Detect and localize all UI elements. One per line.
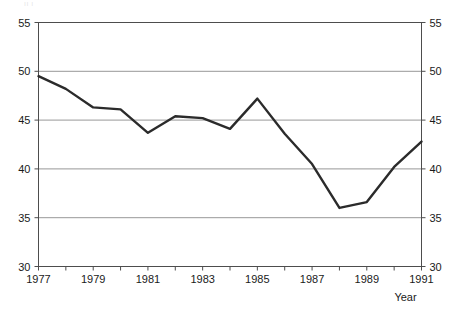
y-tick-label-left: 45 [18,114,30,126]
x-axis-tick-labels: 19771979198119831985198719891991 [26,273,433,285]
y-axis-tick-labels-right: 303540455055 [430,17,442,273]
chart-canvas: 303540455055 303540455055 19771979198119… [0,0,461,313]
y-tick-label-left: 50 [18,65,30,77]
y-tick-label-left: 30 [18,261,30,273]
y-tick-label-left: 55 [18,17,30,29]
x-tick-label: 1979 [81,273,105,285]
x-axis-title: Year [394,291,417,303]
plot-frame [39,23,422,267]
x-tick-label: 1981 [136,273,160,285]
y-axis-ticks-left [35,23,39,267]
y-tick-label-right: 55 [430,17,442,29]
x-tick-label: 1991 [409,273,433,285]
y-axis-tick-labels-left: 303540455055 [18,17,30,273]
y-tick-label-right: 30 [430,261,442,273]
y-tick-label-right: 45 [430,114,442,126]
y-tick-label-left: 40 [18,163,30,175]
x-tick-label: 1989 [355,273,379,285]
x-tick-label: 1985 [245,273,269,285]
x-axis-ticks [39,267,422,271]
y-tick-label-right: 40 [430,163,442,175]
y-tick-label-left: 35 [18,212,30,224]
gridlines [39,71,422,217]
data-series-line [39,76,422,208]
y-axis-ticks-right [422,23,426,267]
x-tick-label: 1987 [300,273,324,285]
line-chart: ıı ı 303540455055 303540455055 197719791… [0,0,461,313]
x-tick-label: 1977 [26,273,50,285]
x-tick-label: 1983 [190,273,214,285]
y-tick-label-right: 35 [430,212,442,224]
y-tick-label-right: 50 [430,65,442,77]
